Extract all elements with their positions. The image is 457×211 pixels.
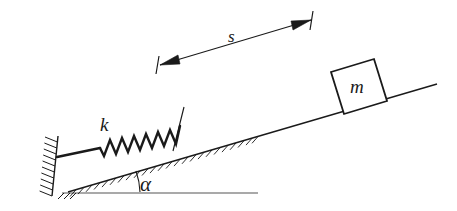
spring-group — [57, 107, 184, 157]
dimension-arrowhead-right — [291, 20, 311, 30]
spring-coils — [100, 126, 180, 156]
spring-free-end-tick — [173, 107, 184, 151]
incline-angle-label: α — [140, 172, 152, 196]
diagram-canvas: k m s α — [0, 0, 457, 211]
dimension-left-tick — [156, 56, 159, 74]
dimension-arrowhead-left — [160, 55, 180, 65]
ground-group — [58, 193, 258, 199]
physics-diagram: k m s α — [0, 0, 457, 211]
dimension-line — [160, 20, 311, 65]
spring-anchor-rod — [57, 148, 100, 157]
spring-stiffness-label: k — [100, 114, 109, 135]
wall-group — [40, 136, 58, 196]
displacement-label: s — [228, 27, 235, 46]
block-mass-label: m — [350, 76, 364, 97]
ground-hatching — [58, 193, 76, 199]
